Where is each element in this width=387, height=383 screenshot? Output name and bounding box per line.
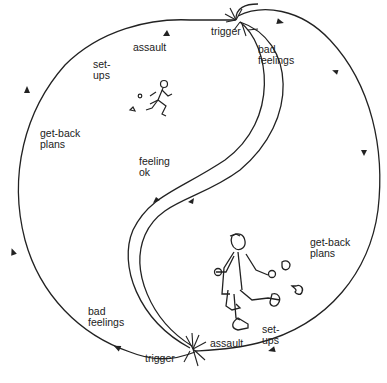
label-bad-feelings-bottom: bad feelings <box>88 306 124 328</box>
label-setups-bottom: set- ups <box>262 324 280 346</box>
label-assault-top: assault <box>133 42 166 53</box>
label-assault-bottom: assault <box>210 338 243 349</box>
label-trigger-top: trigger <box>211 26 241 37</box>
label-getback-plans-top: get-back plans <box>40 128 80 150</box>
large-running-man-icon <box>215 234 303 330</box>
small-running-man-icon <box>130 81 172 117</box>
label-setups-top: set- ups <box>93 59 111 81</box>
label-bad-feelings-top: bad feelings <box>258 44 294 66</box>
label-feeling-ok: feeling ok <box>139 156 170 178</box>
bottom-burst-icon <box>184 333 206 366</box>
escalation-cycle-diagram: trigger bad feelings assault set- ups ge… <box>0 0 387 383</box>
s-curve-inner <box>128 22 264 348</box>
s-curve-outer <box>140 22 283 346</box>
label-getback-plans-bottom: get-back plans <box>310 237 350 259</box>
label-trigger-bottom: trigger <box>145 353 175 364</box>
cycle-lines <box>0 0 387 383</box>
outer-arc-left <box>18 20 235 359</box>
